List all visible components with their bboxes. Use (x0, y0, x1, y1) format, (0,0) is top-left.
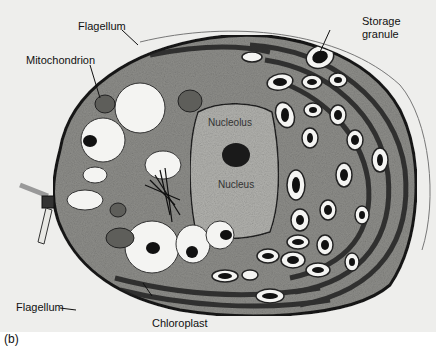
label-flagellum-top: Flagellum (78, 20, 126, 32)
label-flagellum-bottom: Flagellum (16, 301, 64, 313)
label-nucleolus: Nucleolus (208, 117, 252, 129)
cell-micrograph (0, 0, 436, 332)
cell-body (54, 35, 417, 315)
nucleolus (222, 143, 250, 167)
label-mitochondrion: Mitochondrion (26, 54, 95, 66)
label-chloroplast: Chloroplast (152, 317, 208, 329)
label-nucleus: Nucleus (218, 179, 254, 191)
flagellum-base (20, 185, 54, 244)
micrograph-figure: Flagellum Mitochondrion Storage granule … (0, 0, 436, 332)
panel-label: (b) (4, 332, 19, 346)
label-storage-granule-2: granule (362, 28, 399, 40)
label-storage-granule-1: Storage (362, 15, 401, 27)
